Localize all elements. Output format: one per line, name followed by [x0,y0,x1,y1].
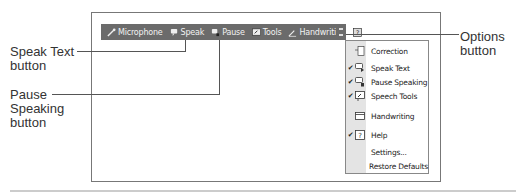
blank-icon [355,147,365,157]
pause-speaking-button[interactable]: Pause [211,28,245,37]
callout-line: button [10,59,74,73]
correction-icon [355,46,365,56]
leader-line-pause-vert [219,40,220,95]
tools-label: Tools [263,28,282,37]
speech-tools-icon [355,91,365,101]
menu-item-help[interactable]: ✔ ? Help [346,128,428,142]
options-button[interactable] [336,24,346,40]
blank-icon [354,161,363,171]
menu-item-label: Correction [371,47,408,56]
leader-line-pause [52,94,220,95]
tools-button[interactable]: Tools [252,28,282,37]
menu-item-label: Pause Speaking [371,78,427,87]
microphone-icon [107,28,116,37]
handwriting-icon [288,28,297,37]
callout-line: Speak Text [10,45,74,59]
callout-line: Options [460,30,505,44]
check-icon: ✔ [347,78,354,86]
menu-item-label: Speak Text [371,64,410,73]
menu-item-restore-defaults[interactable]: Restore Defaults [346,159,428,173]
menu-item-label: Help [371,131,387,140]
help-button[interactable]: ? [353,28,364,37]
microphone-button[interactable]: Microphone [107,28,163,37]
callout-line: Pause [10,88,64,102]
options-menu: Correction ✔ Speak Text ✔ Pause Speaking… [345,40,429,174]
menu-item-correction[interactable]: Correction [346,44,428,58]
help-icon: ? [353,28,362,37]
menu-item-settings[interactable]: Settings... [346,145,428,159]
menu-item-speech-tools[interactable]: ✔ Speech Tools [346,89,428,103]
speak-label: Speak [181,28,205,37]
speak-text-button[interactable]: Speak [170,28,205,37]
language-bar-toolbar: Microphone Speak Pause Tools Handwriting… [101,24,346,40]
menu-item-speak-text[interactable]: ✔ Speak Text [346,61,428,75]
options-icon-bar [339,34,343,36]
help-icon: ? [355,130,365,140]
options-icon [339,28,343,30]
menu-item-handwriting[interactable]: Handwriting [346,109,428,123]
check-icon: ✔ [347,64,354,72]
menu-item-label: Speech Tools [371,92,417,101]
speak-text-icon [355,63,365,73]
divider [10,190,516,192]
handwriting-icon [355,111,365,121]
check-icon: ✔ [347,92,354,100]
leader-line-speak [77,51,186,52]
menu-item-label: Restore Defaults [369,162,428,171]
tools-icon [252,28,261,37]
callout-line: button [460,44,505,58]
callout-line: Speaking [10,102,64,116]
callout-options: Options button [460,30,505,58]
callout-line: button [10,116,64,130]
leader-line-speak-vert [185,40,186,52]
pause-label: Pause [222,28,245,37]
pause-speaking-icon [211,28,220,37]
callout-speak-text: Speak Text button [10,45,74,73]
microphone-label: Microphone [118,28,163,37]
speak-icon [170,28,179,37]
menu-item-label: Settings... [371,148,407,157]
menu-item-pause-speaking[interactable]: ✔ Pause Speaking [346,75,428,89]
leader-line-options [346,34,459,35]
svg-text:?: ? [358,132,362,140]
pause-speaking-icon [355,77,365,87]
menu-item-label: Handwriting [371,112,414,121]
check-icon: ✔ [347,131,354,139]
